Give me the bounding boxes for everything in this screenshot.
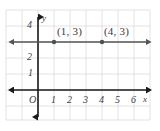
x-axis-label: x	[143, 95, 147, 104]
x-tick-label-3: 3	[83, 95, 88, 105]
coordinate-plane-figure: 4 2 1 1 2 3 4 5 6 O y x (1, 3) (4, 3)	[0, 0, 160, 131]
y-tick-label-4: 4	[27, 20, 32, 30]
graph-canvas	[0, 0, 160, 131]
x-tick-label-5: 5	[115, 95, 120, 105]
y-tick-label-1: 1	[28, 68, 33, 78]
point-label-1-3: (1, 3)	[57, 26, 82, 37]
data-point	[100, 40, 104, 44]
x-tick-label-6: 6	[131, 95, 136, 105]
x-tick-label-1: 1	[51, 95, 56, 105]
point-label-4-3: (4, 3)	[104, 26, 129, 37]
origin-label: O	[29, 95, 36, 105]
x-tick-label-2: 2	[67, 95, 72, 105]
y-tick-label-2: 2	[27, 52, 32, 62]
x-tick-label-4: 4	[99, 95, 104, 105]
data-point	[52, 40, 56, 44]
y-axis-label: y	[42, 14, 46, 23]
